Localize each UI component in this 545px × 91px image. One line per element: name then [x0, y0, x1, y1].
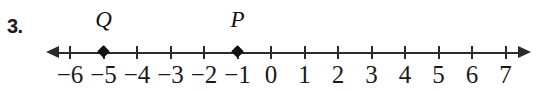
tick-mark	[270, 46, 272, 59]
tick-mark	[438, 46, 440, 59]
point-marker-q	[97, 45, 110, 58]
tick-label: 7	[486, 62, 526, 87]
tick-mark	[304, 46, 306, 59]
point-label-q: Q	[89, 8, 119, 31]
problem-number: 3.	[7, 16, 23, 36]
tick-mark	[505, 46, 507, 59]
arrow-right-icon	[518, 46, 531, 58]
arrow-left-icon	[46, 46, 59, 58]
tick-mark	[404, 46, 406, 59]
point-marker-p	[231, 45, 244, 58]
tick-mark	[471, 46, 473, 59]
tick-mark	[337, 46, 339, 59]
tick-mark	[203, 46, 205, 59]
tick-mark	[69, 46, 71, 59]
tick-mark	[371, 46, 373, 59]
tick-mark	[136, 46, 138, 59]
number-line-axis	[56, 52, 524, 54]
tick-mark	[170, 46, 172, 59]
number-line-figure: 3. −6−5−4−3−2−101234567 QP	[0, 0, 545, 91]
point-label-p: P	[223, 8, 253, 31]
